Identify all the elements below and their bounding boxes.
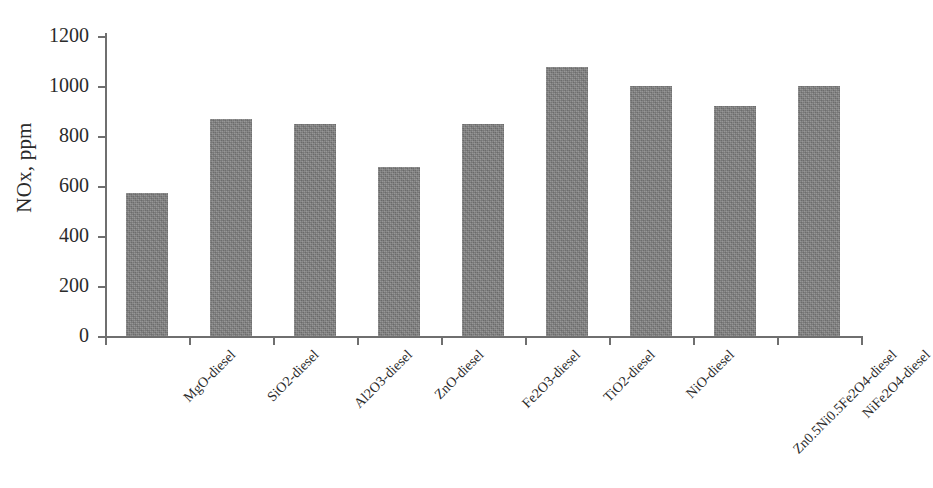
bar — [126, 193, 168, 336]
y-axis-tick: 600 — [98, 186, 106, 188]
x-axis-tick — [189, 336, 191, 345]
bar — [714, 106, 756, 336]
y-axis-tick-label: 1000 — [49, 75, 89, 95]
x-axis-tick-label: Fe2O3-diesel — [519, 347, 583, 411]
x-axis-tick-label: ZnO-diesel — [431, 347, 486, 402]
bar — [546, 67, 588, 336]
x-axis-tick — [357, 336, 359, 345]
x-axis-tick-label: Al2O3-diesel — [351, 347, 415, 411]
x-axis-tick — [693, 336, 695, 345]
x-axis-line — [105, 336, 862, 338]
x-axis-tick — [609, 336, 611, 345]
bar — [294, 124, 336, 337]
x-axis-tick-label: MgO-diesel — [181, 347, 239, 405]
bar — [630, 86, 672, 336]
y-axis-tick-label: 1200 — [49, 25, 89, 45]
x-axis-tick — [441, 336, 443, 345]
x-axis-tick-label: TiO2-diesel — [600, 347, 658, 405]
y-axis-tick-label: 400 — [59, 225, 89, 245]
bar — [462, 124, 504, 337]
x-axis-tick — [273, 336, 275, 345]
y-axis-tick: 800 — [98, 136, 106, 138]
y-axis-tick-label: 600 — [59, 175, 89, 195]
y-axis-tick: 400 — [98, 236, 106, 238]
plot-area: 020040060080010001200 — [105, 36, 861, 336]
y-axis-tick-label: 0 — [79, 325, 89, 345]
x-axis-tick-label: NiO-diesel — [683, 347, 737, 401]
x-axis-tick — [525, 336, 527, 345]
y-axis-tick: 200 — [98, 286, 106, 288]
x-axis-tick-label: SiO2-diesel — [264, 347, 321, 404]
x-axis-tick — [861, 336, 863, 345]
x-axis-tick — [105, 336, 107, 345]
y-axis-tick: 1000 — [98, 86, 106, 88]
bar — [378, 167, 420, 337]
y-axis-tick: 1200 — [98, 36, 106, 38]
y-axis-tick-label: 800 — [59, 125, 89, 145]
y-axis-tick-label: 200 — [59, 275, 89, 295]
y-axis-title: NOx, ppm — [12, 113, 37, 223]
bar — [798, 86, 840, 336]
bar — [210, 119, 252, 336]
x-axis-tick — [777, 336, 779, 345]
